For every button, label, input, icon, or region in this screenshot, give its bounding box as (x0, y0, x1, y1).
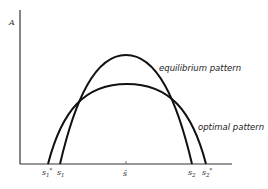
svg-text:s2: s2 (188, 168, 196, 178)
x-tick-s-bar: s̄ (123, 169, 128, 178)
x-tick-s2-star: s2* (202, 167, 213, 178)
x-tick-s1: s1 (57, 168, 65, 178)
equilibrium-pattern-label: equilibrium pattern (159, 63, 241, 73)
x-tick-s2: s2 (188, 168, 196, 178)
y-axis-label: A (8, 18, 15, 27)
svg-text:s2*: s2* (202, 167, 213, 178)
x-tick-s1-star: s1* (42, 167, 53, 178)
optimal-pattern-label: optimal pattern (198, 122, 264, 132)
diagram-canvas: A equilibrium pattern optimal pattern s1… (0, 0, 268, 189)
svg-text:s1*: s1* (42, 167, 53, 178)
svg-text:s̄: s̄ (123, 169, 128, 178)
svg-text:s1: s1 (57, 168, 65, 178)
